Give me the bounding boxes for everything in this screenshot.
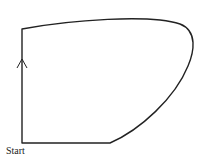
- path-outline: [22, 19, 193, 143]
- closed-path-diagram: [0, 0, 212, 159]
- start-label: Start: [6, 145, 25, 156]
